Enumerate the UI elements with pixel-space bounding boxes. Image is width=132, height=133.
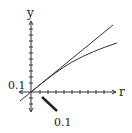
concave-curve	[31, 43, 117, 92]
bottom-scale-label: 0.1	[54, 116, 72, 129]
graph: y r 0.1 0.1	[0, 0, 132, 133]
scale-pointer	[42, 97, 57, 111]
r-axis-label: r	[119, 85, 125, 99]
left-scale-label: 0.1	[8, 79, 26, 92]
y-axis-label: y	[26, 6, 34, 20]
r-axis	[19, 90, 116, 94]
y-axis	[29, 21, 33, 112]
